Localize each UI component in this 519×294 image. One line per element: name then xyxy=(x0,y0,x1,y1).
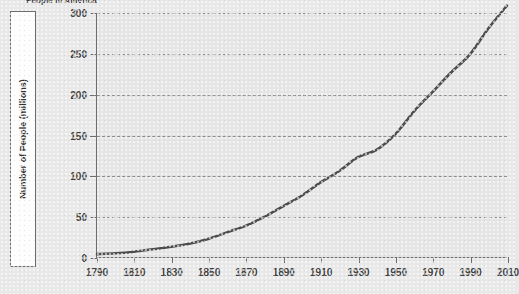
gridline xyxy=(97,136,507,137)
y-axis-tick xyxy=(90,217,97,218)
x-axis-tick-label: 1910 xyxy=(310,267,332,278)
x-axis-tick xyxy=(433,257,434,263)
x-axis-tick xyxy=(508,257,509,263)
y-axis-tick xyxy=(90,13,97,14)
y-axis-tick-label: 200 xyxy=(70,89,87,100)
y-axis-tick-label: 300 xyxy=(70,8,87,19)
x-axis-tick-label: 1930 xyxy=(347,267,369,278)
x-axis-tick-label: 1830 xyxy=(161,267,183,278)
gridline xyxy=(97,217,507,218)
x-axis-tick xyxy=(134,257,135,263)
y-axis-tick-label: 100 xyxy=(70,171,87,182)
gridline xyxy=(97,13,507,14)
plot-area: 0501001502002503001790181018301850187018… xyxy=(96,13,507,258)
x-axis-tick-label: 1870 xyxy=(235,267,257,278)
y-axis-tick xyxy=(90,258,97,259)
y-axis-tick-label: 250 xyxy=(70,48,87,59)
gridline xyxy=(97,95,507,96)
page-title: People in America xyxy=(26,0,97,5)
x-axis-tick xyxy=(321,257,322,263)
x-axis-tick-label: 1850 xyxy=(198,267,220,278)
x-axis-tick-label: 2010 xyxy=(497,267,519,278)
x-axis-tick xyxy=(246,257,247,263)
x-axis-tick xyxy=(471,257,472,263)
y-axis-tick xyxy=(90,54,97,55)
y-axis-tick-label: 0 xyxy=(81,253,87,264)
y-axis-title-box: Number of People (millions) xyxy=(10,11,36,267)
x-axis-tick-label: 1950 xyxy=(385,267,407,278)
x-axis-tick-label: 1970 xyxy=(422,267,444,278)
gridline xyxy=(97,54,507,55)
x-axis-tick xyxy=(359,257,360,263)
x-axis-tick xyxy=(172,257,173,263)
x-axis-tick-label: 1890 xyxy=(273,267,295,278)
y-axis-tick-label: 150 xyxy=(70,130,87,141)
x-axis-tick xyxy=(396,257,397,263)
x-axis-tick-label: 1790 xyxy=(86,267,108,278)
gridline xyxy=(97,176,507,177)
x-axis-tick-label: 1810 xyxy=(123,267,145,278)
y-axis-title: Number of People (millions) xyxy=(18,79,28,199)
x-axis-tick-label: 1990 xyxy=(460,267,482,278)
y-axis-tick xyxy=(90,176,97,177)
x-axis-tick xyxy=(209,257,210,263)
y-axis-tick xyxy=(90,95,97,96)
x-axis-tick xyxy=(97,257,98,263)
x-axis-tick xyxy=(284,257,285,263)
y-axis-tick xyxy=(90,136,97,137)
y-axis-tick-label: 50 xyxy=(76,212,87,223)
